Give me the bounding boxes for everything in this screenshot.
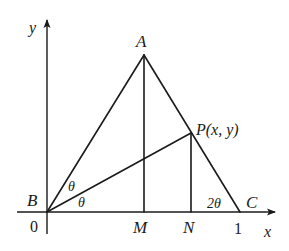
x-tick-label: 1 bbox=[234, 220, 242, 237]
angle-2theta: 2θ bbox=[207, 196, 221, 211]
point-a-label: A bbox=[135, 32, 147, 51]
angle-theta-lower: θ bbox=[78, 195, 85, 210]
side-ba bbox=[47, 55, 144, 212]
point-m-label: M bbox=[132, 218, 148, 237]
origin-label: 0 bbox=[30, 218, 38, 235]
point-p-label: P(x, y) bbox=[195, 121, 239, 139]
point-c-label: C bbox=[246, 193, 258, 212]
diagram-canvas: y x 0 1 A B C M N P(x, y) θ θ 2θ bbox=[0, 0, 289, 251]
angle-theta-upper: θ bbox=[68, 179, 75, 194]
point-b-label: B bbox=[27, 191, 38, 210]
point-n-label: N bbox=[182, 218, 196, 237]
geometry-figure: y x 0 1 A B C M N P(x, y) θ θ 2θ bbox=[0, 0, 289, 251]
y-axis-label: y bbox=[27, 19, 37, 37]
segment-bp bbox=[47, 133, 191, 212]
x-axis-label: x bbox=[263, 223, 271, 240]
